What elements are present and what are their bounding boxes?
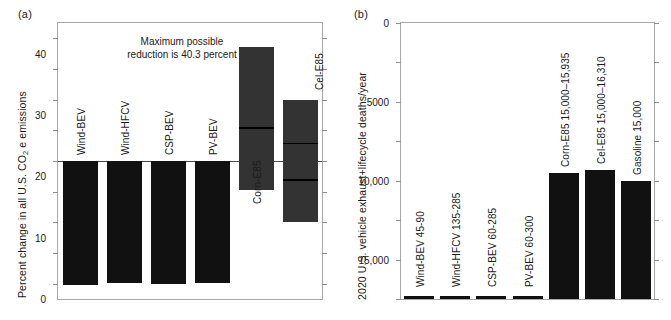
panel-a-plot-area: 403020100−10−20−30−40 Wind-BEVWind-HFCVC… [57,22,323,300]
bar-6 [621,181,651,299]
bar-label-csp-bev: CSP-BEV [164,110,175,155]
bar-5 [585,170,615,299]
annotation-line-1: Maximum possible [102,35,262,48]
y-axis-title-subscript: 2 [21,151,30,155]
bar-pv-bev [195,161,230,283]
y-axis-title-text-pre: Percent change in all U.S. CO [16,155,28,298]
panel-a-plot-inner [58,23,322,299]
y-tick-mark-right [322,222,327,223]
panel-b-label: (b) [354,8,368,20]
y-tick-mark-right [654,62,659,63]
y-tick-mark-right [322,38,327,39]
bar-label-5: Cel-E85 15,000–16,310 [596,57,607,165]
bar-label-wind-hfcv: Wind-HFCV [120,101,131,155]
bar-median-line [283,143,318,145]
bar-wind-hfcv [107,161,142,283]
bar-4 [549,173,579,299]
y-tick-mark-right [654,299,659,300]
y-tick-mark-right [654,181,659,182]
y-tick-label: 0 [40,294,46,305]
y-tick-mark: 35,000 [396,299,401,300]
y-tick-label: 20 [35,171,46,182]
bar-1 [440,296,470,299]
y-tick-mark-right [322,192,327,193]
y-tick-label: 30 [35,110,46,121]
y-tick-mark-right [654,23,659,24]
panel-b-plot-area: 35,00030,00025,00020,00015,00010,0005000… [400,22,655,300]
y-tick-mark-right [322,100,327,101]
y-tick-mark-right [322,253,327,254]
y-tick-mark-right [654,260,659,261]
bar-label-3: PV-BEV 60-300 [524,216,535,287]
y-tick-mark-right [322,161,327,162]
bar-label-pv-bev: PV-BEV [208,118,219,155]
bar-label-corn-e85: Corn-E85 [252,160,263,204]
bar-median-line [239,127,274,129]
bar-csp-bev [151,161,186,284]
y-tick-label: 10 [35,232,46,243]
y-tick-mark-right [654,102,659,103]
bar-label-cel-e85: Cel-E85 [314,53,325,90]
y-tick-label: 5000 [367,96,389,107]
bar-label-6: Gasoline 15,000 [632,100,643,174]
y-tick-mark-right [322,130,327,131]
y-tick-label: 10,000 [358,175,389,186]
figure-container: (a) Percent change in all U.S. CO2 e emi… [0,0,671,320]
bar-3 [513,296,543,299]
panel-a-label: (a) [18,8,32,20]
annotation-line-2: reduction is 40.3 percent [102,48,262,61]
bar-label-0: Wind-BEV 45-90 [415,211,426,287]
y-tick-label: 40 [35,48,46,59]
bar-2 [476,296,506,299]
y-tick-mark-right [654,220,659,221]
bar-cel-e85 [283,100,318,223]
panel-a: (a) Percent change in all U.S. CO2 e emi… [0,0,340,320]
bar-median-line [283,179,318,181]
panel-a-annotation: Maximum possible reduction is 40.3 perce… [102,35,262,61]
y-axis-title-text-post2: e emissions [16,91,28,148]
bar-label-wind-bev: Wind-BEV [76,108,87,155]
bar-label-4: Corn-E85 15,000–15,935 [560,53,571,168]
y-tick-label: 0 [383,18,389,29]
bar-0 [404,296,434,299]
panel-a-y-axis-title: Percent change in all U.S. CO2 e emissio… [16,91,28,298]
bar-label-1: Wind-HFCV 135-285 [451,192,462,287]
y-tick-mark-right [322,284,327,285]
bar-wind-bev [63,161,98,285]
y-tick-mark-right [654,141,659,142]
bar-label-2: CSP-BEV 60-285 [487,208,498,287]
y-tick-label: 15,000 [358,254,389,265]
panel-b: (b) 2020 U.S. vehicle exhaust+lifecycle … [340,0,671,320]
